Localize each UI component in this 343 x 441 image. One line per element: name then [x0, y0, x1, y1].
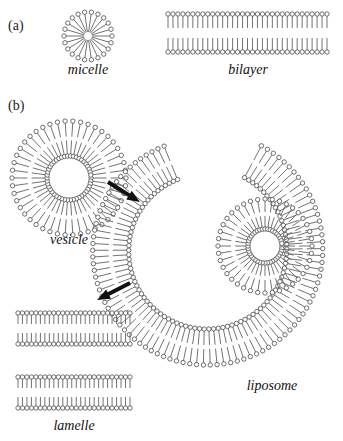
- lipid-tail: [286, 177, 299, 187]
- lipid-head: [110, 311, 114, 315]
- lipid-head: [225, 216, 229, 220]
- lipid-head: [128, 165, 132, 169]
- lipid-head: [111, 212, 115, 216]
- lipid-head: [20, 342, 24, 346]
- lipid-tail: [115, 268, 131, 272]
- lipid-head: [78, 120, 82, 124]
- lipid-tail: [88, 215, 95, 229]
- lipid-head: [188, 362, 192, 366]
- lipid-tail: [36, 212, 45, 225]
- lipid-head: [176, 12, 180, 16]
- lipid-tail: [93, 262, 109, 264]
- lipid-tail: [128, 294, 141, 303]
- lipid-head: [71, 154, 75, 158]
- lipid-tail: [264, 153, 273, 166]
- lipid-tail: [219, 251, 232, 253]
- lipid-head: [275, 50, 279, 54]
- lipid-tail: [121, 177, 133, 187]
- lipid-tail: [36, 131, 45, 144]
- lipid-tail: [43, 194, 54, 205]
- lipid-tail: [237, 208, 245, 219]
- lipid-tail: [71, 141, 72, 156]
- lipid-head: [159, 186, 163, 190]
- lipid-head: [163, 183, 167, 187]
- lipid-head: [65, 406, 69, 410]
- lipid-head: [101, 311, 105, 315]
- lipid-tail: [244, 225, 253, 234]
- lipid-tail: [295, 225, 307, 231]
- lipid-tail: [167, 167, 174, 181]
- lipid-tail: [268, 263, 270, 276]
- lipid-head: [319, 267, 323, 271]
- arrow-head-icon: [107, 180, 140, 202]
- lipid-tail: [113, 245, 129, 246]
- micelle: [62, 10, 114, 62]
- lipid-head: [86, 122, 90, 126]
- lipid-tail: [301, 284, 316, 289]
- lipid-head: [45, 173, 49, 177]
- lipid-tail: [235, 241, 248, 243]
- lipid-head: [191, 12, 195, 16]
- lipid-head: [258, 187, 262, 191]
- lipid-head: [279, 249, 283, 253]
- lipid-tail: [92, 29, 111, 35]
- lipid-head: [55, 120, 59, 124]
- lipid-head: [246, 241, 250, 245]
- lipid-head: [93, 226, 97, 230]
- lipid-tail: [84, 194, 95, 205]
- lipid-head: [174, 359, 178, 363]
- lipid-head: [317, 274, 321, 278]
- lipid-tail: [91, 173, 106, 175]
- lipid-tail: [57, 122, 60, 137]
- lipid-head: [137, 288, 141, 292]
- lipid-head: [315, 50, 319, 54]
- lipid-head: [68, 154, 72, 158]
- lipid-head: [74, 406, 78, 410]
- lipid-tail: [278, 319, 290, 330]
- lipid-head: [98, 209, 102, 213]
- lipid-tail: [253, 170, 262, 183]
- lipid-tail: [250, 201, 254, 213]
- lipid-head: [211, 327, 215, 331]
- lipid-tail: [91, 18, 104, 33]
- lipid-tail: [135, 301, 147, 311]
- lipid-tail: [260, 334, 269, 347]
- lipid-tail: [260, 216, 262, 229]
- lipid-head: [260, 349, 264, 353]
- lipid-head: [216, 251, 220, 255]
- lipid-head: [247, 315, 251, 319]
- lipid-head: [96, 12, 100, 16]
- lipid-tail: [65, 37, 84, 43]
- lipid-head: [215, 12, 219, 16]
- lipid-tail: [236, 251, 248, 255]
- lipid-head: [168, 357, 172, 361]
- lipid-head: [179, 323, 183, 327]
- lipid-tail: [124, 319, 135, 330]
- lipid-tail: [71, 200, 72, 215]
- lipid-tail: [300, 208, 315, 214]
- lipid-head: [196, 12, 200, 16]
- lipid-head: [271, 259, 275, 263]
- lipid-tail: [76, 143, 81, 158]
- lipid-tail: [197, 349, 198, 365]
- lipid-tail: [114, 234, 130, 237]
- lipid-head: [122, 160, 126, 164]
- lipid-tail: [236, 323, 242, 338]
- lipid-tail: [286, 232, 302, 235]
- lipid-head: [253, 258, 257, 262]
- lipid-tail: [244, 258, 253, 267]
- lipid-head: [156, 189, 160, 193]
- lipid-head: [76, 12, 80, 16]
- lipid-head: [46, 182, 50, 186]
- lipid-tail: [235, 249, 248, 251]
- lipid-head: [127, 257, 131, 261]
- lipid-head: [270, 290, 274, 294]
- lipid-head: [89, 173, 93, 177]
- lipid-tail: [277, 258, 286, 267]
- lipid-tail: [82, 147, 91, 160]
- lipid-head: [133, 161, 137, 165]
- lipid-tail: [210, 349, 211, 365]
- lipid-head: [301, 312, 305, 316]
- lipid-head: [128, 342, 132, 346]
- lipid-head: [266, 345, 270, 349]
